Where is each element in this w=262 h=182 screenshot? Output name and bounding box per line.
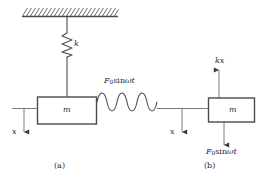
spring-constant-label: k: [74, 40, 79, 48]
excitation-wave: [97, 93, 157, 111]
mass-label-b: m: [229, 106, 237, 114]
displacement-label-a: x: [12, 128, 17, 136]
force-function-a: sin: [113, 76, 125, 85]
caption-b: (b): [204, 162, 215, 170]
excitation-force-label-a: F0sinωt: [104, 77, 135, 86]
mass-label-a: m: [63, 106, 71, 114]
ceiling-support: [22, 8, 119, 17]
force-time-b: t: [234, 147, 237, 156]
spring-coil: [62, 33, 72, 57]
displacement-indicator-b: [157, 109, 209, 133]
force-time-a: t: [132, 76, 135, 85]
force-function-b: sin: [215, 147, 227, 156]
caption-a: (a): [54, 162, 65, 170]
free-body-diagram-figure: k m x F0sinωt kx m x F0sinωt (a) (b): [0, 0, 262, 182]
displacement-label-b: x: [170, 128, 175, 136]
applied-force-label-b: F0sinωt: [206, 148, 237, 157]
spring-force-label: kx: [215, 57, 224, 65]
